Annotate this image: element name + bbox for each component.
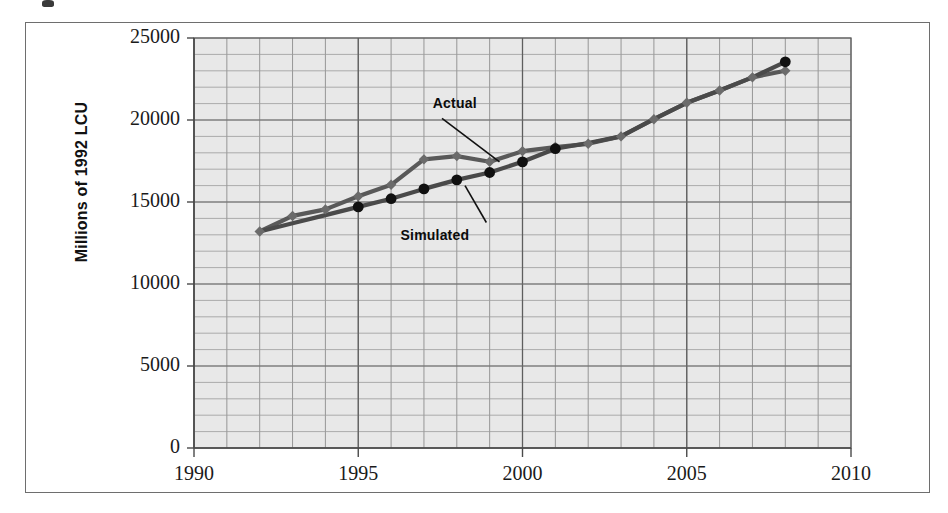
plot-canvas [26,23,931,494]
figure-root: Millions of 1992 LCU 0500010000150002000… [0,0,948,513]
scan-artifact-speck [42,0,54,7]
chart-figure-frame: Millions of 1992 LCU 0500010000150002000… [25,22,930,493]
series-annotation-simulated: Simulated [401,227,470,243]
series-annotation-actual: Actual [433,95,477,111]
